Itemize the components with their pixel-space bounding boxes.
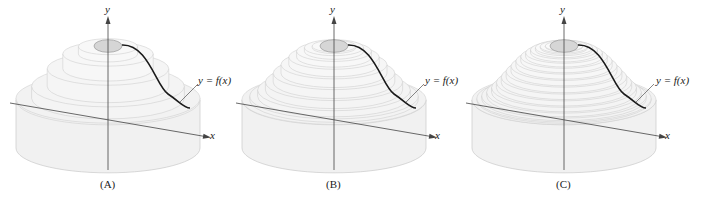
solid-drawing — [0, 0, 235, 206]
curve-label: y = f(x) — [425, 74, 458, 86]
curve-label: y = f(x) — [656, 74, 689, 86]
y-axis-label: y — [330, 3, 335, 15]
y-axis-label: y — [105, 3, 110, 15]
shell-method-figure: y x y = f(x) (A) y x y = f(x) (B) y x y … — [0, 0, 701, 206]
y-arrow-icon — [106, 16, 111, 24]
panel-caption: (A) — [100, 178, 115, 190]
solid-drawing — [235, 0, 470, 206]
solid-drawing — [466, 0, 701, 206]
panel-caption: (C) — [556, 178, 571, 190]
panel-c: y x y = f(x) (C) — [466, 0, 701, 206]
y-arrow-icon — [332, 16, 337, 24]
y-axis-label: y — [560, 3, 565, 15]
panel-caption: (B) — [326, 178, 341, 190]
x-axis-label: x — [665, 129, 670, 141]
curve-label: y = f(x) — [198, 74, 231, 86]
x-axis-label: x — [210, 129, 215, 141]
panel-a: y x y = f(x) (A) — [0, 0, 235, 206]
x-axis-label: x — [435, 129, 440, 141]
panel-b: y x y = f(x) (B) — [235, 0, 470, 206]
y-arrow-icon — [562, 16, 567, 24]
